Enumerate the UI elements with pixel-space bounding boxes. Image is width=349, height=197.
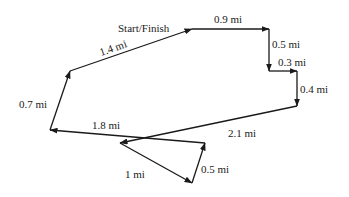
label-2-1-mi: 2.1 mi [228,127,256,139]
route-segments [50,29,297,183]
label-0-3-mi: 0.3 mi [278,56,306,68]
label-1-4-mi: 1.4 mi [98,37,128,58]
route-labels: Start/Finish 0.9 mi 0.5 mi 0.3 mi 0.4 mi… [19,13,328,180]
segment-1-4-mi [70,29,192,71]
label-1-mi: 1 mi [125,168,145,180]
label-0-4-mi: 0.4 mi [300,83,328,95]
label-0-7-mi: 0.7 mi [19,98,47,110]
label-0-5-mi-a: 0.5 mi [272,38,300,50]
start-finish-label: Start/Finish [118,22,170,34]
label-0-9-mi: 0.9 mi [214,13,242,25]
route-diagram: Start/Finish 0.9 mi 0.5 mi 0.3 mi 0.4 mi… [0,0,349,197]
label-1-8-mi: 1.8 mi [92,119,120,131]
segment-0-7-mi [50,71,70,130]
label-0-5-mi-b: 0.5 mi [201,163,229,175]
